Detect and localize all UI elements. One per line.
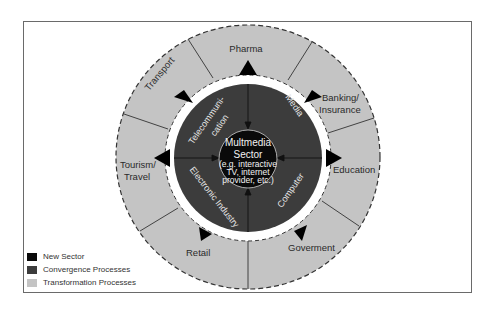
legend-swatch-transformation xyxy=(27,279,37,287)
legend-label: New Sector xyxy=(43,252,84,261)
label-tourism-1: Tourism/ xyxy=(120,159,156,170)
label-banking-2: Insurance xyxy=(319,104,361,115)
label-government: Goverment xyxy=(288,242,335,253)
label-retail: Retail xyxy=(186,247,210,258)
center-title-1: Multmedia xyxy=(225,137,272,148)
legend-label: Convergence Processes xyxy=(43,265,130,274)
label-pharma: Pharma xyxy=(229,43,263,54)
legend-swatch-convergence xyxy=(27,266,37,274)
legend-item-transformation: Transformation Processes xyxy=(27,276,136,289)
legend-swatch-new-sector xyxy=(27,253,37,261)
legend-item-convergence: Convergence Processes xyxy=(27,263,136,276)
label-education: Education xyxy=(333,164,375,175)
legend-item-new-sector: New Sector xyxy=(27,250,136,263)
label-tourism-2: Travel xyxy=(124,171,150,182)
legend: New Sector Convergence Processes Transfo… xyxy=(27,250,136,289)
center-sub-3: provider, etc.) xyxy=(222,175,274,185)
label-banking-1: Banking/ xyxy=(322,92,359,103)
legend-label: Transformation Processes xyxy=(43,278,136,287)
